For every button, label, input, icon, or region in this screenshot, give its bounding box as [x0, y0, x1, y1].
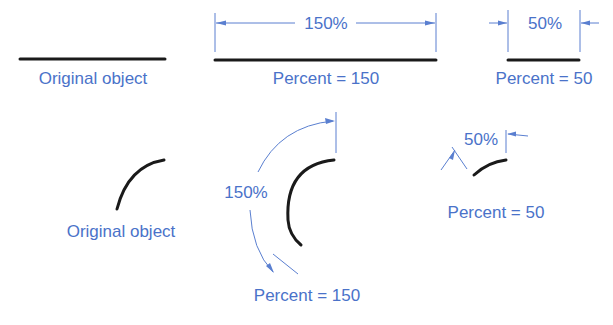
arc-original-label: Original object: [67, 222, 176, 241]
dimension-text-50: 50%: [528, 14, 562, 33]
dimension-arc-lower: [250, 210, 273, 272]
linear-percent-150: 150% Percent = 150: [215, 13, 436, 88]
dimension-text-150: 150%: [304, 14, 347, 33]
arc-50-label: Percent = 50: [448, 203, 545, 222]
linear-original-label: Original object: [39, 69, 148, 88]
arc-percent-150: 150% Percent = 150: [224, 112, 360, 305]
shortened-arc-50: [474, 160, 506, 175]
original-arc: [117, 160, 164, 209]
arc-original: Original object: [67, 160, 176, 241]
arrowhead-left-icon: [216, 21, 226, 26]
arrowhead-top-icon: [325, 118, 335, 124]
linear-150-label: Percent = 150: [273, 69, 379, 88]
dimension-text-150: 150%: [224, 183, 267, 202]
arrowhead-left-icon: [498, 21, 507, 26]
arc-percent-50: 50% Percent = 50: [441, 130, 544, 222]
lengthened-arc-150: [288, 160, 334, 245]
dimension-text-50: 50%: [464, 130, 498, 149]
arc-150-label: Percent = 150: [254, 286, 360, 305]
arrowhead-left-icon: [449, 150, 455, 160]
extension-line-bottom: [273, 254, 298, 274]
dimension-arc-upper: [258, 121, 333, 172]
linear-original: Original object: [20, 59, 165, 88]
linear-percent-50: 50% Percent = 50: [489, 10, 599, 88]
arrowhead-right-icon: [581, 21, 590, 26]
arrowhead-top-icon: [507, 132, 516, 137]
linear-50-label: Percent = 50: [496, 69, 593, 88]
lengthen-percent-diagram: Original object 150% Percent = 150 50% P…: [0, 0, 613, 325]
arrowhead-right-icon: [425, 21, 435, 26]
